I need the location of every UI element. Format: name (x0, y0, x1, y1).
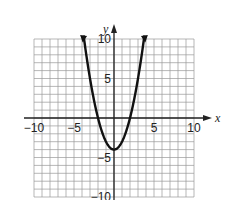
y-axis-arrow-icon (111, 24, 117, 33)
x-tick-label: −5 (67, 121, 81, 135)
x-tick-label: −10 (24, 121, 45, 135)
y-tick-label: 5 (104, 72, 111, 86)
y-tick-label: −10 (91, 190, 112, 200)
tick-labels: −10−5510105−5−10 (24, 32, 201, 200)
y-axis-label: y (102, 22, 109, 36)
x-axis-label: x (214, 111, 221, 125)
y-tick-label: −5 (97, 151, 111, 165)
x-tick-label: 10 (187, 121, 201, 135)
x-tick-label: 5 (151, 121, 158, 135)
parabola-chart: −10−5510105−5−10 x y (0, 0, 235, 200)
x-axis-arrow-icon (203, 115, 212, 121)
